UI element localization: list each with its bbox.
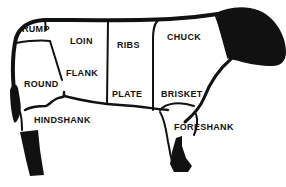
cut-label-hindshank: HINDSHANK [34, 116, 91, 125]
rump-round-divider [16, 41, 62, 80]
cut-label-round: ROUND [24, 80, 59, 89]
cow-head [214, 7, 286, 66]
ribs-chuck-divider [153, 19, 160, 110]
cut-label-plate: PLATE [112, 90, 142, 99]
hind-leg-outline [20, 112, 22, 130]
cut-label-foreshank: FORESHANK [174, 123, 234, 132]
loin-ribs-divider [107, 21, 108, 104]
front-hoof [170, 136, 192, 172]
hind-leg [10, 84, 21, 122]
hind-hoof [20, 130, 44, 176]
belly-line [25, 92, 168, 110]
cut-label-chuck: CHUCK [167, 33, 201, 42]
cut-label-ribs: RIBS [117, 41, 140, 50]
cut-label-loin: LOIN [70, 37, 93, 46]
cut-label-flank: FLANK [66, 69, 98, 78]
cut-label-rump: RUMP [22, 25, 50, 34]
cut-label-brisket: BRISKET [161, 90, 203, 99]
